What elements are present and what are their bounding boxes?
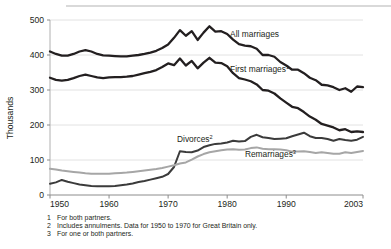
y-tick-label: 500 [30, 15, 45, 25]
series-label: Remarriages3 [245, 149, 296, 159]
footnote-row: 3For one or both partners. [47, 230, 257, 238]
data-series-lines [50, 26, 363, 186]
x-tick-label: 1950 [50, 199, 69, 209]
series-line [50, 147, 363, 173]
series-label: First marriages1 [230, 64, 289, 74]
series-label: Divorces2 [177, 134, 213, 144]
line-chart-plot: 0100200300400500 19501960197019801990200… [0, 0, 391, 212]
x-axis-ticks [50, 195, 363, 199]
x-tick-label: 2003 [344, 199, 363, 209]
footnote-marker: 2 [210, 134, 213, 140]
footnote-row: 1For both partners. [47, 214, 257, 222]
footnote-text: For both partners. [57, 214, 112, 222]
y-tick-label: 200 [30, 120, 45, 130]
top-rule [66, 5, 391, 7]
y-tick-label: 300 [30, 85, 45, 95]
y-tick-label: 0 [39, 190, 44, 200]
series-label: All marriages [230, 29, 279, 39]
y-tick-labels: 0100200300400500 [30, 15, 50, 200]
x-tick-labels: 195019601970198019902003 [50, 199, 363, 209]
footnote-text: For one or both partners. [57, 230, 133, 238]
series-line [50, 58, 363, 132]
footnote-number: 3 [47, 230, 57, 238]
footnotes-block: 1For both partners.2Includes annulments.… [47, 214, 257, 239]
x-tick-label: 1970 [159, 199, 178, 209]
footnote-number: 2 [47, 222, 57, 230]
y-axis-title: Thousands [5, 97, 15, 140]
footnote-row: 2Includes annulments. Data for 1950 to 1… [47, 222, 257, 230]
x-tick-label: 1980 [218, 199, 237, 209]
y-tick-label: 400 [30, 50, 45, 60]
x-tick-label: 1960 [99, 199, 118, 209]
footnote-number: 1 [47, 214, 57, 222]
chart-figure: 0100200300400500 19501960197019801990200… [0, 0, 391, 249]
footnote-marker: 1 [286, 64, 289, 70]
x-tick-label: 1990 [277, 199, 296, 209]
footnote-marker: 3 [293, 149, 296, 155]
footnote-text: Includes annulments. Data for 1950 to 19… [57, 222, 257, 230]
y-tick-label: 100 [30, 155, 45, 165]
